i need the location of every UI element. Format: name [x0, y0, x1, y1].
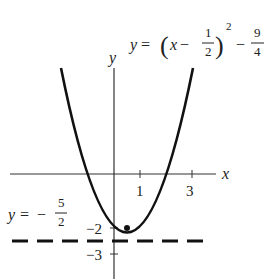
svg-text:5: 5 [58, 195, 65, 210]
svg-text:−: − [180, 36, 189, 53]
y-tick-label-minus2: −2 [86, 221, 102, 237]
chart: x y 1 3 −2 −3 y = ( x − 1 2 ) 2 − 9 4 y … [0, 0, 274, 279]
vertex-point [124, 225, 130, 231]
svg-text:−: − [236, 36, 245, 53]
svg-text:=: = [20, 206, 29, 223]
svg-text:2: 2 [58, 214, 65, 229]
y-axis-label: y [107, 49, 117, 67]
svg-text:y: y [6, 206, 16, 224]
svg-text:2: 2 [226, 20, 232, 32]
svg-text:y: y [128, 36, 138, 54]
svg-text:=: = [141, 36, 150, 53]
svg-text:9: 9 [254, 25, 261, 40]
svg-text:4: 4 [254, 44, 261, 59]
svg-text:−: − [37, 206, 46, 223]
svg-text:2: 2 [205, 44, 212, 59]
dashed-line-label: y = − 5 2 [6, 195, 67, 229]
parabola-curve [61, 68, 193, 233]
left-paren: ( [160, 31, 169, 60]
x-tick-label-3: 3 [186, 183, 194, 199]
curve-equation-label: y = ( x − 1 2 ) 2 − 9 4 [128, 20, 264, 60]
chart-canvas: x y 1 3 −2 −3 y = ( x − 1 2 ) 2 − 9 4 y … [0, 0, 274, 279]
x-axis-label: x [221, 165, 229, 182]
svg-text:1: 1 [205, 25, 212, 40]
y-tick-label-minus3: −3 [86, 247, 102, 263]
x-tick-label-1: 1 [136, 183, 144, 199]
svg-text:x: x [169, 36, 177, 53]
right-paren: ) [215, 31, 224, 60]
